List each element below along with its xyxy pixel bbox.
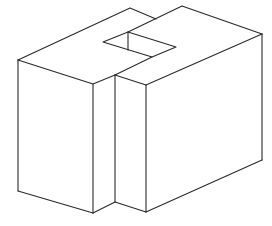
left-block-front-top-edge	[18, 60, 115, 84]
left-block	[18, 8, 156, 213]
block-diagram	[0, 0, 272, 226]
right-block-bottom-right-edge	[146, 160, 262, 212]
right-block-top-front-edge	[146, 34, 262, 85]
right-block-top-back-edge	[128, 6, 262, 34]
left-block-bottom-edge	[18, 191, 93, 213]
right-block-top-left-edge	[115, 75, 146, 85]
middle-diagonal-edge	[115, 57, 152, 75]
isometric-blocks-drawing	[0, 0, 272, 226]
right-block-bottom-left-edge	[115, 202, 146, 212]
left-block-bottom-right-edge	[93, 202, 115, 213]
right-block	[115, 6, 262, 212]
notch-outline	[103, 32, 176, 57]
square-notch	[103, 32, 176, 57]
